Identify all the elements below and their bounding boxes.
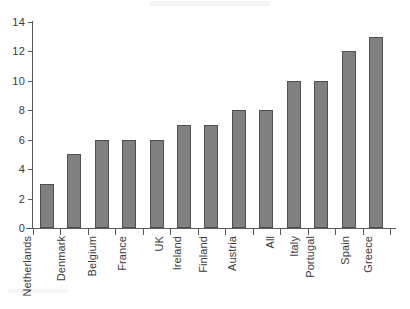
x-axis-category-label: All [260, 236, 272, 249]
bar [177, 125, 191, 228]
x-axis-category-label: Denmark [52, 236, 64, 281]
bar-slot [88, 22, 115, 228]
bar-slot [253, 22, 280, 228]
bars-container [33, 22, 390, 228]
bar [369, 37, 383, 228]
bar [287, 81, 301, 228]
x-axis-labels: NetherlandsDenmarkBelgiumFranceUKIreland… [33, 236, 390, 309]
x-axis-category-label: Netherlands [17, 236, 29, 296]
bar [122, 140, 136, 228]
bar-slot [115, 22, 142, 228]
x-axis-tick-mark [115, 229, 116, 235]
x-axis-category-label: Italy [284, 236, 296, 257]
x-label-slot: Austria [225, 236, 252, 309]
x-axis-line [26, 228, 396, 229]
bar-slot [308, 22, 335, 228]
bar [67, 154, 81, 228]
x-axis-tick-mark [335, 229, 336, 235]
x-axis-tick-mark [390, 229, 391, 235]
bar-slot [225, 22, 252, 228]
bar-slot [280, 22, 307, 228]
x-axis-tick-mark [33, 229, 34, 235]
x-axis-category-label: Finland [193, 236, 205, 273]
bar-slot [33, 22, 60, 228]
y-axis-tick-label: 10 [12, 75, 25, 86]
y-axis-tick-label: 2 [19, 193, 25, 204]
y-axis-tick-label: 6 [19, 134, 25, 145]
x-axis-category-label: France [112, 236, 124, 271]
x-label-slot: Greece [363, 236, 390, 309]
x-axis-category-label: Belgium [81, 236, 93, 276]
x-axis-tick-mark [88, 229, 89, 235]
x-label-slot: All [253, 236, 280, 309]
y-axis-tick-label: 4 [19, 164, 25, 175]
bar [95, 140, 109, 228]
x-axis-tick-mark [308, 229, 309, 235]
x-axis-tick-mark [225, 229, 226, 235]
x-axis-tick-mark [363, 229, 364, 235]
bar [150, 140, 164, 228]
x-axis-tick-mark [280, 229, 281, 235]
x-axis-category-label: Austria [221, 236, 233, 271]
bar-slot [60, 22, 87, 228]
x-axis-category-label: Greece [358, 236, 370, 273]
x-axis-tick-mark [170, 229, 171, 235]
x-axis-category-label: Spain [334, 236, 346, 265]
x-axis-category-label: Portugal [300, 236, 312, 278]
bar-slot [143, 22, 170, 228]
x-axis-category-label: Ireland [167, 236, 179, 270]
x-axis-category-label: UK [149, 236, 161, 251]
x-label-slot: France [115, 236, 142, 309]
bar [314, 81, 328, 228]
x-axis-tick-mark [143, 229, 144, 235]
bar-slot [198, 22, 225, 228]
bar [259, 110, 273, 228]
y-axis-tick-label: 8 [19, 105, 25, 116]
x-axis-tick-mark [60, 229, 61, 235]
bar [40, 184, 54, 228]
x-axis-tick-mark [253, 229, 254, 235]
x-axis-tick-mark [198, 229, 199, 235]
x-label-slot: Portugal [308, 236, 335, 309]
bar [232, 110, 246, 228]
y-axis-tick-label: 12 [12, 46, 25, 57]
bar [204, 125, 218, 228]
y-axis-tick-label: 14 [12, 17, 25, 28]
bar-chart: 02468101214 NetherlandsDenmarkBelgiumFra… [0, 0, 410, 309]
bar-slot [335, 22, 362, 228]
bar-slot [363, 22, 390, 228]
bar-slot [170, 22, 197, 228]
y-axis-tick-label: 0 [19, 223, 25, 234]
bar [342, 51, 356, 228]
scan-artifact-top [150, 1, 270, 6]
